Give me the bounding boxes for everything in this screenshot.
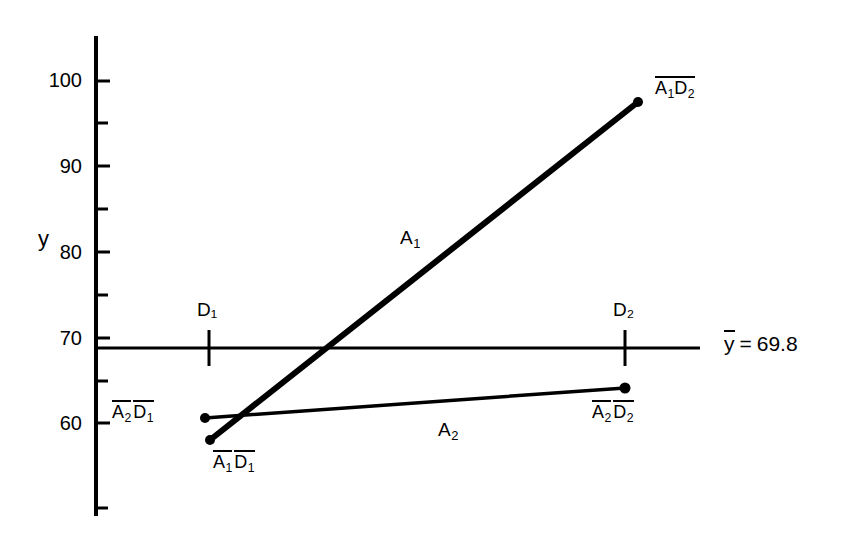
point-label-a1d1-d-sub: 1 <box>247 461 254 475</box>
x-level-label-d2: D₂ <box>613 300 634 319</box>
grand-mean-value: 69.8 <box>757 332 798 355</box>
point-label-a2d2-d-sub: 2 <box>626 411 633 425</box>
point-label-a1d2-d-base: D <box>674 78 687 98</box>
y-tick-label-80: 80 <box>20 242 82 262</box>
point-label-a1d1: A1D1 <box>213 450 257 474</box>
grand-mean-annotation: y=69.8 <box>724 330 798 354</box>
series-label-a1: A1 <box>400 228 420 251</box>
point-label-a1d2-overbar: A1D2 <box>655 76 695 100</box>
point-label-a2d1: A2D1 <box>112 400 156 424</box>
data-point-a2d2 <box>620 383 631 394</box>
grand-mean-equals: = <box>735 332 757 355</box>
series-label-a2-base: A <box>438 419 451 440</box>
data-point-a2d1 <box>200 413 210 423</box>
series-label-a2-subscript: 2 <box>451 428 459 443</box>
y-tick-label-90: 90 <box>20 156 82 176</box>
point-label-a1d1-a-base: A <box>213 452 225 472</box>
series-label-a1-base: A <box>400 227 413 248</box>
point-label-a2d2-a-sub: 2 <box>604 411 611 425</box>
point-label-a1d2: A1D2 <box>655 76 695 100</box>
y-axis-major-ticks <box>98 81 110 423</box>
point-label-a2d1-overbar-d: D1 <box>133 400 153 424</box>
series-line-a1 <box>210 102 638 440</box>
data-point-a1d1 <box>205 435 215 445</box>
y-tick-label-60: 60 <box>20 413 82 433</box>
x-level-label-d1-text: D₁ <box>197 299 217 320</box>
point-label-a2d2-overbar-a: A2 <box>592 400 611 424</box>
y-axis-minor-ticks <box>98 123 108 508</box>
point-label-a1d1-a-sub: 1 <box>225 461 232 475</box>
data-point-a1d2 <box>633 97 643 107</box>
x-level-label-d1: D₁ <box>197 300 217 319</box>
series-label-a2: A2 <box>438 420 458 443</box>
point-label-a1d1-overbar-a: A1 <box>213 450 232 474</box>
point-label-a2d2-d-base: D <box>613 402 626 422</box>
point-label-a1d1-overbar-d: D1 <box>234 450 254 474</box>
plot-canvas <box>0 0 854 542</box>
grand-mean-symbol-overbar: y <box>724 330 735 354</box>
x-level-label-d2-text: D₂ <box>613 299 634 320</box>
series-label-a1-subscript: 1 <box>413 236 421 251</box>
grand-mean-symbol: y <box>724 332 735 355</box>
point-label-a2d1-d-base: D <box>133 402 146 422</box>
y-tick-label-100: 100 <box>20 70 82 90</box>
point-label-a2d2-overbar-d: D2 <box>613 400 633 424</box>
point-label-a2d1-a-sub: 2 <box>124 411 131 425</box>
interaction-plot-figure: y 100 90 80 70 60 D₁ D₂ A1 A2 A1D2 A2D1 … <box>0 0 854 542</box>
point-label-a2d1-a-base: A <box>112 402 124 422</box>
point-label-a1d2-d-sub: 2 <box>687 87 694 101</box>
point-label-a2d2-a-base: A <box>592 402 604 422</box>
point-label-a2d2: A2D2 <box>592 400 636 424</box>
point-label-a2d1-overbar-a: A2 <box>112 400 131 424</box>
point-label-a1d1-d-base: D <box>234 452 247 472</box>
y-tick-label-70: 70 <box>20 328 82 348</box>
point-label-a2d1-d-sub: 1 <box>146 411 153 425</box>
point-label-a1d2-a-base: A <box>655 78 667 98</box>
